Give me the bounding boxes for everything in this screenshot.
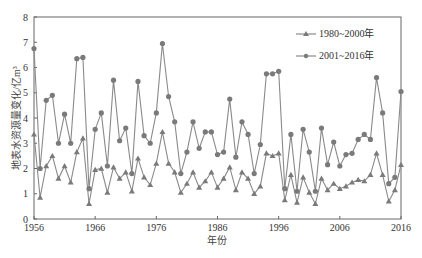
triangle-marker-icon xyxy=(184,181,190,186)
triangle-marker-icon xyxy=(300,174,306,179)
line-chart: 012345678 1956196619761986199620062016 年… xyxy=(0,0,422,258)
legend-item-2001-2016: 2001~2016年 xyxy=(296,49,374,61)
circle-marker-icon xyxy=(245,132,250,137)
legend-label-2001-2016: 2001~2016年 xyxy=(319,49,374,61)
circle-marker-icon xyxy=(135,79,140,84)
triangle-marker-icon xyxy=(374,150,380,155)
series-circle xyxy=(31,41,403,194)
circle-marker-icon xyxy=(99,110,104,115)
x-tick-label: 1986 xyxy=(208,222,228,233)
triangle-marker-icon xyxy=(68,179,74,184)
circle-marker-icon xyxy=(368,137,373,142)
series-layer xyxy=(31,41,404,206)
triangle-marker-icon xyxy=(74,149,80,154)
circle-marker-icon xyxy=(304,54,308,58)
x-tick-label: 1976 xyxy=(146,222,166,233)
circle-marker-icon xyxy=(190,119,195,124)
circle-marker-icon xyxy=(215,152,220,157)
triangle-marker-icon xyxy=(263,150,269,155)
x-axis-title: 年份 xyxy=(207,234,227,246)
y-tick-label: 3 xyxy=(23,138,28,149)
circle-marker-icon xyxy=(123,126,128,131)
circle-marker-icon xyxy=(166,94,171,99)
triangle-marker-icon xyxy=(49,153,55,158)
circle-marker-icon xyxy=(221,149,226,154)
triangle-marker-icon xyxy=(37,195,43,200)
circle-marker-icon xyxy=(93,127,98,132)
circle-marker-icon xyxy=(209,129,214,134)
triangle-marker-icon xyxy=(398,162,404,167)
circle-marker-icon xyxy=(62,112,67,117)
circle-marker-icon xyxy=(154,110,159,115)
circle-marker-icon xyxy=(325,162,330,167)
circle-marker-icon xyxy=(184,149,189,154)
triangle-marker-icon xyxy=(104,189,110,194)
x-tick-label: 1956 xyxy=(24,222,44,233)
circle-marker-icon xyxy=(31,46,36,51)
circle-marker-icon xyxy=(74,56,79,61)
circle-marker-icon xyxy=(343,152,348,157)
y-axis-ticks: 012345678 xyxy=(23,12,37,225)
circle-marker-icon xyxy=(142,133,147,138)
legend: 1980~2000年 2001~2016年 xyxy=(296,27,374,61)
circle-marker-icon xyxy=(178,171,183,176)
triangle-marker-icon xyxy=(276,150,282,155)
circle-marker-icon xyxy=(301,127,306,132)
circle-marker-icon xyxy=(288,132,293,137)
y-tick-label: 2 xyxy=(23,163,28,174)
circle-marker-icon xyxy=(227,96,232,101)
triangle-marker-icon xyxy=(55,176,61,181)
triangle-marker-icon xyxy=(257,183,263,188)
circle-marker-icon xyxy=(44,98,49,103)
triangle-marker-icon xyxy=(306,189,312,194)
triangle-marker-icon xyxy=(294,200,300,205)
circle-marker-icon xyxy=(111,78,116,83)
x-tick-label: 1966 xyxy=(85,222,105,233)
circle-marker-icon xyxy=(50,93,55,98)
circle-marker-icon xyxy=(80,55,85,60)
triangle-marker-icon xyxy=(318,176,324,181)
triangle-marker-icon xyxy=(159,129,165,134)
triangle-marker-icon xyxy=(282,197,288,202)
circle-marker-icon xyxy=(203,129,208,134)
circle-marker-icon xyxy=(392,175,397,180)
triangle-marker-icon xyxy=(367,172,373,177)
circle-marker-icon xyxy=(270,71,275,76)
x-tick-label: 2016 xyxy=(391,222,411,233)
y-tick-label: 4 xyxy=(23,113,28,124)
triangle-marker-icon xyxy=(208,169,214,174)
circle-marker-icon xyxy=(38,166,43,171)
triangle-marker-icon xyxy=(233,187,239,192)
y-tick-label: 8 xyxy=(23,12,28,23)
circle-marker-icon xyxy=(282,186,287,191)
circle-marker-icon xyxy=(68,141,73,146)
triangle-marker-icon xyxy=(380,172,386,177)
circle-marker-icon xyxy=(197,146,202,151)
circle-marker-icon xyxy=(331,139,336,144)
triangle-marker-icon xyxy=(123,169,129,174)
circle-marker-icon xyxy=(233,155,238,160)
circle-marker-icon xyxy=(172,119,177,124)
triangle-marker-icon xyxy=(355,177,361,182)
triangle-marker-icon xyxy=(386,198,392,203)
circle-marker-icon xyxy=(349,151,354,156)
y-axis-title: 地表水资源量变化/亿m³ xyxy=(10,66,22,170)
circle-marker-icon xyxy=(129,171,134,176)
circle-marker-icon xyxy=(252,171,257,176)
triangle-marker-icon xyxy=(129,188,135,193)
triangle-marker-icon xyxy=(312,201,318,206)
circle-marker-icon xyxy=(319,126,324,131)
triangle-marker-icon xyxy=(239,169,245,174)
circle-marker-icon xyxy=(386,181,391,186)
circle-marker-icon xyxy=(148,141,153,146)
circle-marker-icon xyxy=(307,149,312,154)
circle-marker-icon xyxy=(117,138,122,143)
y-tick-label: 5 xyxy=(23,87,28,98)
triangle-marker-icon xyxy=(111,164,117,169)
x-tick-label: 1996 xyxy=(269,222,289,233)
circle-marker-icon xyxy=(398,89,403,94)
triangle-marker-icon xyxy=(62,163,68,168)
triangle-marker-icon xyxy=(288,172,294,177)
circle-marker-icon xyxy=(264,71,269,76)
y-tick-label: 7 xyxy=(23,37,28,48)
